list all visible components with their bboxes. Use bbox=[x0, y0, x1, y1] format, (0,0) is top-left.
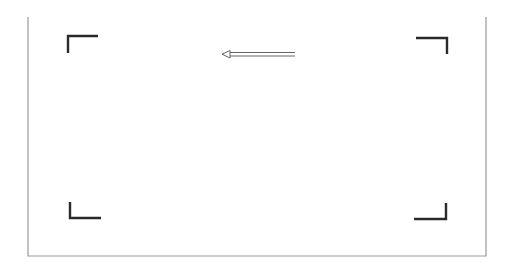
corner-bracket-bottom-left-icon bbox=[70, 202, 101, 218]
corner-bracket-bottom-right-icon bbox=[414, 203, 446, 219]
corner-bracket-top-right-icon bbox=[416, 38, 447, 54]
corner-bracket-top-left-icon bbox=[68, 36, 98, 53]
left-arrow-icon bbox=[222, 51, 295, 59]
viewfinder-diagram bbox=[0, 0, 511, 269]
